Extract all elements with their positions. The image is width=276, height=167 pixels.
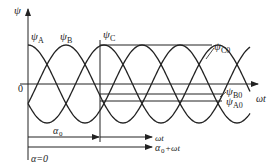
label-psi-c0: ψ C0 [214, 40, 230, 55]
label-psi-c: ψ C [103, 28, 115, 43]
svg-text:A: A [38, 36, 44, 45]
leader-c0 [206, 48, 214, 59]
svg-text:ψ: ψ [60, 30, 67, 42]
origin-label: 0 [18, 83, 23, 94]
svg-text:ψ: ψ [31, 30, 38, 42]
label-psi-b: ψ B [60, 30, 72, 45]
svg-text:ψ: ψ [226, 95, 233, 107]
svg-text:ψ: ψ [103, 28, 110, 40]
y-axis-label: ψ [14, 4, 21, 16]
svg-text:B0: B0 [233, 91, 242, 100]
label-alpha-zero: α=0 [31, 153, 48, 164]
svg-text:C: C [110, 34, 115, 43]
x-axis-label: ωt [256, 93, 266, 104]
label-alpha0: α 0 [53, 125, 63, 138]
label-alpha0-plus-omega-t: α 0 +ωt [155, 142, 180, 155]
svg-text:+ωt: +ωt [165, 143, 180, 153]
svg-text:ψ: ψ [214, 40, 221, 52]
three-phase-flux-diagram: ψ ωt 0 ψ A ψ B ψ C ψ C0 ψ B0 ψ A0 α 0 ωt… [0, 0, 276, 167]
svg-text:C0: C0 [221, 46, 230, 55]
svg-text:0: 0 [59, 130, 63, 138]
svg-text:B: B [67, 36, 72, 45]
label-psi-a: ψ A [31, 30, 44, 45]
svg-text:A0: A0 [233, 101, 243, 110]
